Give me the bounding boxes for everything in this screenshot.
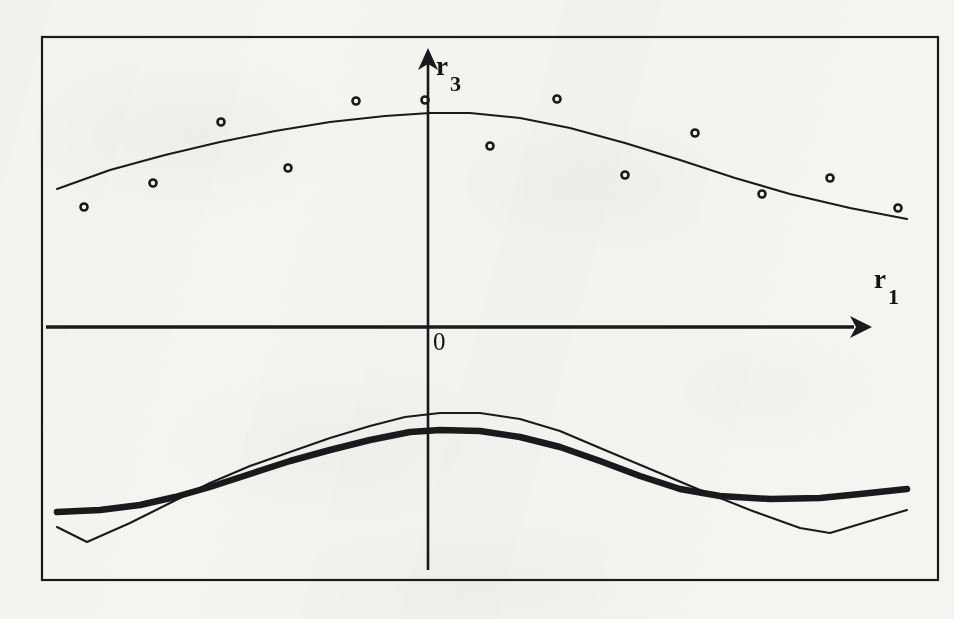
x-axis-label: r1 (874, 264, 899, 309)
scatter-point (422, 97, 429, 104)
curve-thick-lower (57, 430, 907, 512)
fitted-curve-upper (57, 113, 907, 219)
scatter-point (150, 180, 157, 187)
scatter-point (554, 96, 561, 103)
y-axis (418, 48, 438, 570)
scatter-point (692, 130, 699, 137)
scatter-point (285, 165, 292, 172)
scatter-point (759, 191, 766, 198)
scatter-plot: r3 r1 0 (0, 0, 954, 619)
scatter-point (895, 205, 902, 212)
x-axis (46, 316, 872, 338)
scatter-points (81, 96, 902, 212)
scatter-point (487, 143, 494, 150)
scatter-point (218, 119, 225, 126)
origin-label: 0 (433, 328, 446, 355)
y-axis-label: r3 (436, 51, 461, 96)
scatter-point (81, 204, 88, 211)
figure-canvas: r3 r1 0 (0, 0, 954, 619)
scatter-point (622, 172, 629, 179)
scatter-point (353, 98, 360, 105)
scatter-point (827, 175, 834, 182)
